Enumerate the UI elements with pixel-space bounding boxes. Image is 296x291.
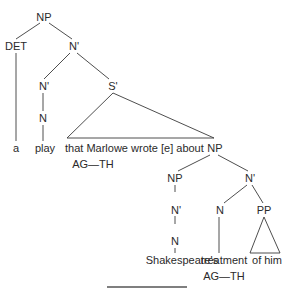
node-nbar-poss: N' bbox=[245, 173, 255, 184]
branch-nbar2-n bbox=[224, 185, 247, 203]
word-treatment: treatment bbox=[201, 255, 247, 266]
syntax-tree-diagram: NP DET N' N' S' N NP NP N' N' N PP N a p… bbox=[0, 0, 296, 291]
roles-treatment: AG—TH bbox=[203, 271, 245, 282]
branch-np-np bbox=[178, 155, 210, 171]
sbar-triangle bbox=[67, 93, 214, 138]
branch-nbar-sbar bbox=[77, 53, 109, 79]
node-n-poss: N bbox=[171, 236, 179, 247]
roles-wrote: AG—TH bbox=[72, 159, 114, 170]
branch-np-nbar bbox=[49, 23, 72, 39]
node-n-1: N bbox=[39, 113, 47, 124]
branch-nbar2-pp bbox=[252, 185, 263, 203]
node-n-head: N bbox=[216, 205, 224, 216]
word-of-him: of him bbox=[252, 255, 282, 266]
branch-np-nbar2 bbox=[218, 155, 248, 171]
node-nbar-1: N' bbox=[69, 41, 79, 52]
node-np-root: NP bbox=[36, 12, 51, 23]
node-pp: PP bbox=[257, 205, 272, 216]
word-clause: that Marlowe wrote [e] about bbox=[65, 143, 204, 154]
word-play: play bbox=[35, 143, 55, 154]
node-sbar: S' bbox=[108, 81, 117, 92]
node-nbar-3: N' bbox=[171, 205, 181, 216]
branch-np-det bbox=[16, 23, 40, 39]
node-nbar-2: N' bbox=[39, 81, 49, 92]
branch-nbar-nbar bbox=[44, 53, 70, 79]
pp-triangle bbox=[250, 217, 280, 253]
node-np-obj: NP bbox=[207, 143, 222, 154]
word-a: a bbox=[13, 143, 19, 154]
node-np-poss: NP bbox=[167, 173, 182, 184]
node-det: DET bbox=[5, 41, 27, 52]
